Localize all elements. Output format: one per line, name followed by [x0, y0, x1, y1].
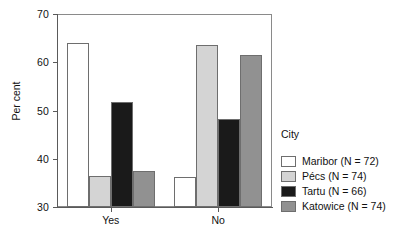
x-axis-tick-label: Yes	[76, 214, 146, 226]
legend: City Maribor (N = 72)Pécs (N = 74)Tartu …	[281, 128, 405, 214]
legend-item-label: Pécs (N = 74)	[302, 170, 366, 182]
x-axis-line	[57, 207, 273, 208]
x-axis-tick-label: No	[183, 214, 253, 226]
legend-swatch	[281, 171, 296, 182]
legend-item-label: Maribor (N = 72)	[302, 155, 379, 167]
y-axis-tick-label: 40	[9, 154, 49, 164]
legend-item: Tartu (N = 66)	[281, 184, 405, 198]
bar-pécs-yes	[89, 176, 111, 207]
legend-item: Pécs (N = 74)	[281, 169, 405, 183]
bar-maribor-yes	[67, 43, 89, 207]
legend-swatch	[281, 201, 296, 212]
bar-katowice-no	[240, 55, 262, 207]
legend-title: City	[281, 128, 405, 140]
legend-swatch	[281, 186, 296, 197]
legend-swatch	[281, 156, 296, 167]
x-axis-tick	[218, 208, 219, 212]
legend-item-label: Tartu (N = 66)	[302, 185, 366, 197]
y-axis-line	[57, 14, 58, 208]
y-axis-tick	[53, 62, 57, 63]
legend-item: Maribor (N = 72)	[281, 154, 405, 168]
legend-item: Katowice (N = 74)	[281, 199, 405, 213]
x-axis-tick	[111, 208, 112, 212]
y-axis-tick	[53, 14, 57, 15]
bar-maribor-no	[174, 177, 196, 207]
bar-pécs-no	[196, 45, 218, 207]
y-axis-tick	[53, 111, 57, 112]
bar-katowice-yes	[133, 171, 155, 207]
bar-tartu-no	[218, 119, 240, 207]
legend-item-label: Katowice (N = 74)	[302, 200, 386, 212]
bar-chart: Per cent 3040506070 YesNo City Maribor (…	[0, 0, 405, 241]
legend-items: Maribor (N = 72)Pécs (N = 74)Tartu (N = …	[281, 154, 405, 213]
bar-tartu-yes	[111, 102, 133, 207]
y-axis-tick-label: 30	[9, 202, 49, 212]
y-axis-tick	[53, 159, 57, 160]
y-axis-tick-label: 50	[9, 106, 49, 116]
y-axis-tick-label: 70	[9, 9, 49, 19]
y-axis-title: Per cent	[10, 66, 22, 136]
y-axis-tick-label: 60	[9, 57, 49, 67]
